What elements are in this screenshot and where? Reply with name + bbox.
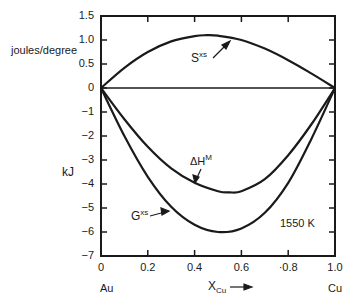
label-arrows xyxy=(150,41,230,216)
y-tick-label: 0 xyxy=(64,81,94,93)
y-tick-label: −1 xyxy=(64,105,94,117)
curve-s-xs xyxy=(101,35,335,88)
x-end-label-au: Au xyxy=(100,282,113,294)
y-tick-label: 0.5 xyxy=(64,57,94,69)
x-tick-label: 0.6 xyxy=(226,261,256,273)
x-end-label-cu: Cu xyxy=(328,282,342,294)
x-tick-label: 0.2 xyxy=(133,261,163,273)
curve-label-s-xs: Sxs xyxy=(191,50,207,65)
curve-delta-h-mix xyxy=(101,88,335,193)
x-tick-label: 1.0 xyxy=(320,261,350,273)
y-tick-label: 1.5 xyxy=(64,9,94,21)
y-axis-label-lower: kJ xyxy=(62,165,74,179)
x-axis-label: XCu xyxy=(208,279,226,295)
x-tick-label: 0 xyxy=(86,261,116,273)
temperature-annotation: 1550 K xyxy=(280,217,315,229)
y-tick-label: −3 xyxy=(64,153,94,165)
y-axis-label-upper: joules/degree xyxy=(11,44,77,56)
curve-label-g-xs: Gxs xyxy=(131,208,148,223)
y-tick-label: −6 xyxy=(64,225,94,237)
x-tick-label: 0.4 xyxy=(180,261,210,273)
curves xyxy=(101,35,335,232)
y-tick-label: −5 xyxy=(64,201,94,213)
curve-label-delta-h: ΔHM xyxy=(190,153,212,167)
y-tick-label: −2 xyxy=(64,129,94,141)
xlabel-arrow xyxy=(230,284,252,290)
x-tick-label: ·0.8 xyxy=(273,261,303,273)
y-tick-label: −7 xyxy=(64,249,94,261)
